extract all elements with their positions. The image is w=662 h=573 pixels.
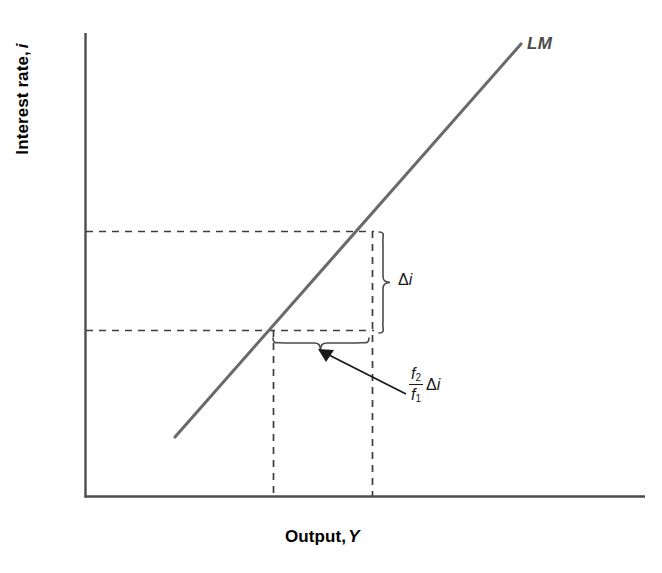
delta-i-label: Δi [398,272,412,288]
fraction-term-brace [273,338,369,350]
y-axis-label-text: Interest rate, [14,51,31,154]
fraction-denominator: f1 [409,384,423,404]
y-axis-label-variable: i [14,43,31,51]
fraction-term-label: f2 f1 Δi [409,366,440,404]
x-axis-label-variable: Y [346,527,359,546]
fraction-numerator: f2 [409,366,423,384]
delta-i-brace [379,232,390,333]
fraction-numerator-subscript: 2 [415,372,421,383]
fraction-multiplier-delta: Δ [426,376,437,393]
lm-curve-line [175,44,521,437]
lm-curve-figure: Interest rate,i Output,Y LM Δi f2 f1 Δi [0,0,662,573]
fraction-multiplier: Δi [423,377,440,393]
fraction-multiplier-variable: i [437,376,441,393]
delta-i-variable: i [409,271,413,288]
lm-curve-label: LM [527,35,552,52]
fraction-group: f2 f1 [409,366,423,404]
fraction-denominator-subscript: 1 [415,393,421,404]
guide-lines-group [86,231,374,496]
x-axis-label: Output,Y [285,528,360,545]
delta-i-symbol: Δ [398,271,409,288]
lm-curve-group [175,44,521,437]
y-axis-label: Interest rate,i [0,0,44,214]
diagram-canvas [0,0,662,573]
axes-group [85,33,646,498]
arrow-shaft [329,355,406,394]
fraction-term-arrow [318,349,406,394]
x-axis-label-text: Output, [285,527,346,546]
